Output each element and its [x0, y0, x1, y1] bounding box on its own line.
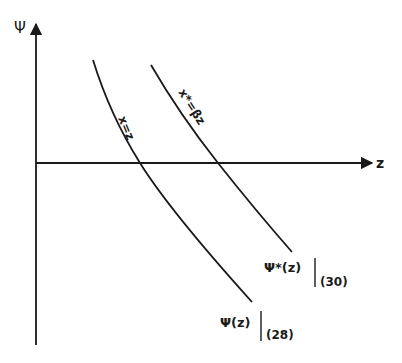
psi-diagram: Ψ z x=z x*=βz Ψ*(z) (30) Ψ(z) (28) [0, 0, 402, 363]
psi-label-sub: (28) [266, 328, 294, 342]
psi-star-label-main: Ψ*(z) [264, 260, 301, 275]
curve-psi [93, 60, 252, 302]
curve-psi-star-label: x*=βz [175, 86, 208, 127]
psi-label-main: Ψ(z) [220, 315, 251, 330]
y-axis-label: Ψ [14, 19, 26, 37]
curve-psi-star [151, 65, 292, 252]
psi-star-label-sub: (30) [320, 275, 348, 289]
psi-star-end-label: Ψ*(z) (30) [264, 258, 348, 289]
curve-psi-label: x=z [115, 114, 137, 142]
psi-end-label: Ψ(z) (28) [220, 311, 294, 342]
x-axis-label: z [376, 155, 384, 171]
